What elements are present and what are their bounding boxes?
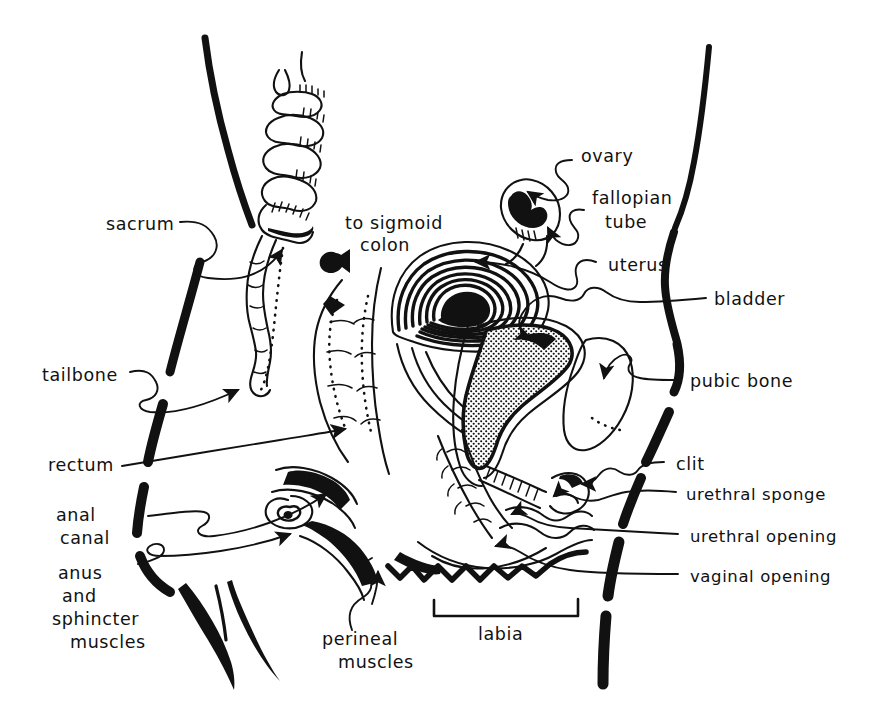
label-anal-canal-2: canal (60, 528, 110, 548)
label-uterus: uterus (608, 255, 668, 275)
anatomy-svg: sacrum tailbone rectum anal canal anus a… (0, 0, 887, 714)
label-labia: labia (478, 624, 523, 644)
diagram-canvas: sacrum tailbone rectum anal canal anus a… (0, 0, 887, 714)
label-sacrum: sacrum (106, 214, 174, 234)
label-bladder: bladder (714, 289, 785, 309)
label-anus-4: muscles (70, 632, 146, 652)
label-urethral-opening: urethral opening (690, 527, 837, 546)
label-urethral-sponge: urethral sponge (686, 485, 826, 504)
label-perineal-2: muscles (338, 652, 414, 672)
label-fallopian-1: fallopian (592, 188, 673, 208)
label-anus-1: anus (58, 563, 102, 583)
label-vaginal-opening: vaginal opening (690, 567, 831, 586)
label-anal-canal-1: anal (56, 505, 96, 525)
label-sigmoid-2: colon (360, 235, 410, 255)
background (0, 0, 887, 714)
label-anus-2: and (62, 586, 97, 606)
label-pubic-bone: pubic bone (690, 371, 793, 391)
label-sigmoid-1: to sigmoid (345, 213, 443, 233)
label-perineal-1: perineal (322, 629, 398, 649)
label-rectum: rectum (48, 455, 114, 475)
label-fallopian-2: tube (605, 212, 647, 232)
label-tailbone: tailbone (42, 365, 118, 385)
label-anus-3: sphincter (52, 609, 139, 629)
label-clit: clit (676, 454, 705, 474)
label-ovary: ovary (581, 146, 633, 166)
